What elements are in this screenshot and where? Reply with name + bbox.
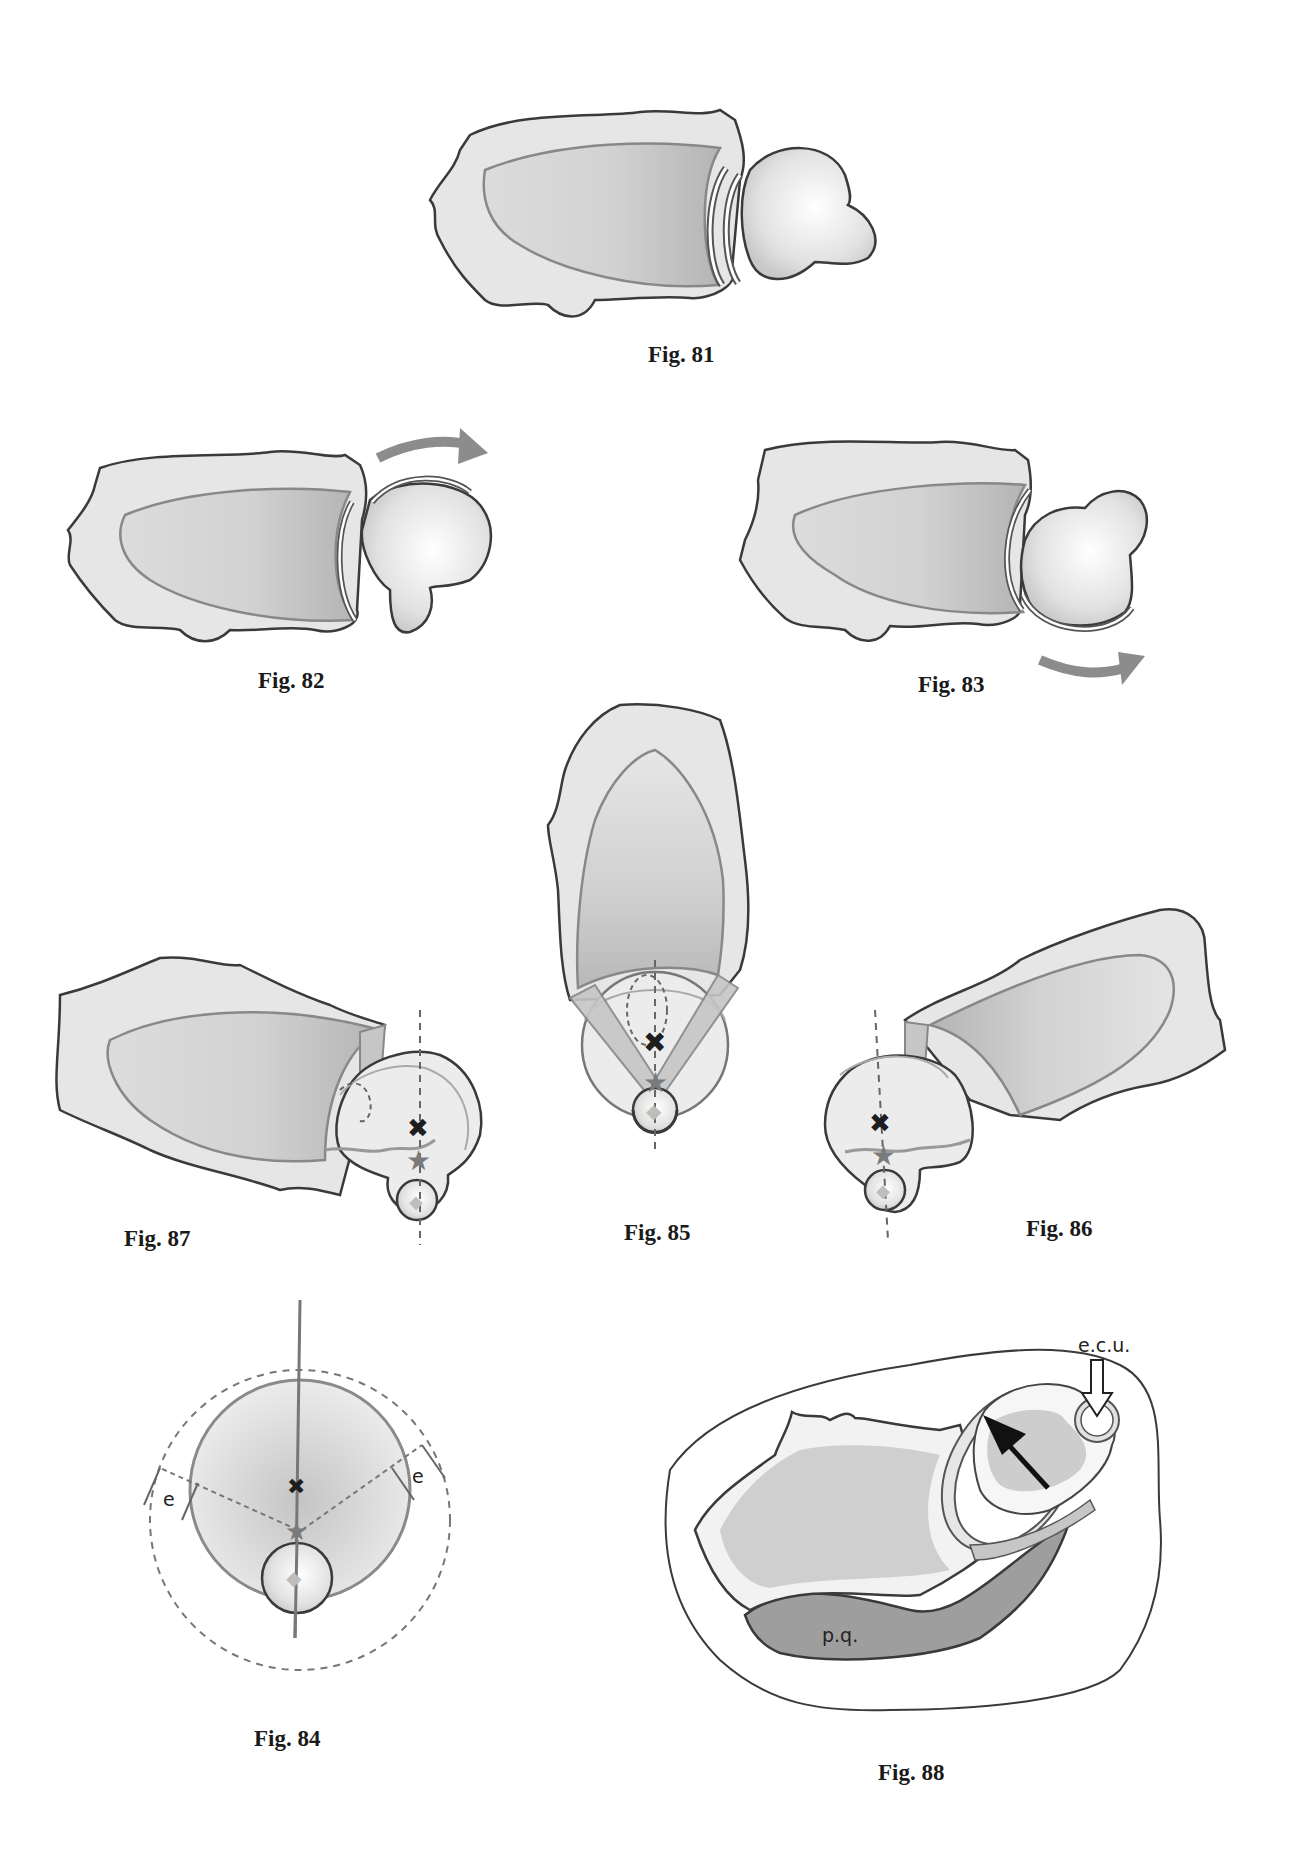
figure-84: e e ✖ ★ ◆ Fig. 84 — [130, 1320, 490, 1800]
star-marker: ★ — [285, 1516, 308, 1546]
figure-81: Fig. 81 — [0, 0, 1292, 380]
caption-fig-86: Fig. 86 — [1026, 1216, 1092, 1242]
star-marker: ★ — [871, 1139, 896, 1172]
caption-fig-88: Fig. 88 — [878, 1760, 944, 1786]
star-marker: ★ — [406, 1144, 431, 1177]
e-label-left: e — [163, 1488, 175, 1510]
right-e-tick-outer — [422, 1445, 445, 1478]
caption-fig-85: Fig. 85 — [624, 1220, 690, 1246]
star-marker: ★ — [643, 1066, 668, 1099]
figure-82: Fig. 82 — [0, 420, 560, 720]
diamond-marker: ◆ — [646, 1099, 662, 1123]
arrow-head — [458, 428, 488, 464]
left-e-tick-outer — [144, 1468, 160, 1505]
cross-marker: ✖ — [407, 1113, 429, 1143]
e-label-right: e — [412, 1465, 424, 1487]
caption-fig-83: Fig. 83 — [918, 672, 984, 698]
fig86-drawing: ✖ ★ ◆ — [820, 900, 1260, 1260]
figure-83: Fig. 83 — [740, 440, 1260, 720]
ulna-head — [1021, 491, 1147, 625]
rotation-arrow — [378, 442, 470, 458]
fig83-drawing — [740, 440, 1260, 720]
cross-marker: ✖ — [287, 1474, 305, 1499]
figure-87: ✖ ★ ◆ Fig. 87 — [40, 950, 520, 1270]
caption-fig-84: Fig. 84 — [254, 1726, 320, 1752]
fig87-drawing: ✖ ★ ◆ — [40, 950, 520, 1270]
diamond-marker: ◆ — [409, 1191, 423, 1212]
cross-marker: ✖ — [869, 1108, 891, 1138]
ulna-head — [362, 484, 491, 633]
caption-fig-82: Fig. 82 — [258, 668, 324, 694]
diamond-marker: ◆ — [876, 1180, 890, 1201]
diamond-marker: ◆ — [286, 1566, 302, 1590]
fig85-drawing: ✖ ★ ◆ — [540, 700, 780, 1260]
figure-88: p.q. e.c.u. Fig. 88 — [650, 1320, 1210, 1820]
fig81-drawing — [0, 0, 1292, 380]
caption-fig-81: Fig. 81 — [648, 342, 714, 368]
figure-85: ✖ ★ ◆ Fig. 85 — [540, 700, 780, 1260]
ulna-head — [742, 148, 876, 279]
cross-marker: ✖ — [643, 1026, 666, 1059]
figure-86: ✖ ★ ◆ Fig. 86 — [820, 900, 1260, 1260]
rotation-arrow — [1040, 660, 1125, 673]
ecu-label: e.c.u. — [1078, 1334, 1130, 1356]
fig88-drawing: p.q. e.c.u. — [650, 1320, 1210, 1820]
arrow-head — [1118, 652, 1145, 685]
pq-label: p.q. — [822, 1624, 858, 1646]
caption-fig-87: Fig. 87 — [124, 1226, 190, 1252]
